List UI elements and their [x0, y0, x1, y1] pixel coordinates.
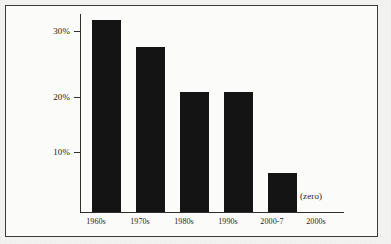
bar-1980s [180, 92, 209, 212]
plot-area [80, 14, 344, 212]
x-tick-label-1970s: 1970s [116, 216, 164, 227]
bar-1960s [92, 20, 121, 212]
x-axis-line [80, 212, 344, 213]
x-tick-label-1960s: 1960s [72, 216, 120, 227]
zero-annotation-label: (zero) [300, 191, 322, 201]
y-tick-label-20: 20% [40, 92, 70, 102]
y-tick-label-10: 10% [40, 147, 70, 157]
x-tick-label-2000-7: 2000-7 [248, 216, 296, 227]
figure-canvas: 30% 20% 10% (zero) 1960s 1970s 1980s 199… [0, 0, 391, 244]
bar-2000-7 [268, 173, 297, 212]
bar-1970s [136, 47, 165, 212]
x-tick-label-2000s: 2000s [292, 216, 340, 227]
x-tick-label-1980s: 1980s [160, 216, 208, 227]
bar-1990s [224, 92, 253, 212]
x-tick-label-1990s: 1990s [204, 216, 252, 227]
y-tick-label-30: 30% [40, 26, 70, 36]
